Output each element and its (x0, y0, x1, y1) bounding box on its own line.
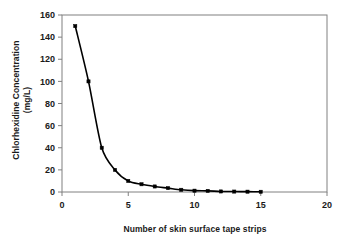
x-axis-ticks: 05101520 (59, 192, 332, 210)
y-axis-ticks: 020406080100120140160 (40, 10, 62, 197)
data-point-marker (180, 188, 183, 191)
data-point-marker (127, 179, 130, 182)
y-tick-label: 20 (45, 165, 55, 175)
y-axis-label-line2: (mg/L) (22, 40, 33, 159)
x-tick-label: 0 (59, 200, 64, 210)
y-tick-label: 160 (40, 10, 55, 20)
data-point-marker (219, 190, 222, 193)
chart-figure: Chlorhexidine Concentration (mg/L) 02040… (0, 0, 349, 251)
x-tick-label: 5 (126, 200, 131, 210)
data-point-marker (100, 146, 103, 149)
data-point-marker (87, 80, 90, 83)
x-tick-label: 10 (189, 200, 199, 210)
data-point-marker (259, 190, 262, 193)
plot-area: 020406080100120140160 05101520 (0, 0, 349, 251)
y-tick-label: 0 (50, 187, 55, 197)
x-axis-label: Number of skin surface tape strips (62, 224, 328, 234)
y-tick-label: 100 (40, 77, 55, 87)
y-axis-label: Chlorhexidine Concentration (mg/L) (4, 0, 40, 200)
data-point-marker (113, 168, 116, 171)
x-tick-label: 20 (322, 200, 332, 210)
plot-frame (62, 15, 327, 192)
data-point-marker (140, 183, 143, 186)
y-tick-label: 60 (45, 121, 55, 131)
x-tick-label: 15 (256, 200, 266, 210)
data-point-marker (166, 187, 169, 190)
y-tick-label: 140 (40, 32, 55, 42)
y-tick-label: 40 (45, 143, 55, 153)
data-point-marker (206, 189, 209, 192)
y-axis-label-line1: Chlorhexidine Concentration (11, 40, 22, 159)
data-point-marker (74, 24, 77, 27)
data-point-marker (233, 190, 236, 193)
y-tick-label: 80 (45, 99, 55, 109)
data-point-marker (153, 185, 156, 188)
data-point-marker (193, 189, 196, 192)
data-point-marker (246, 190, 249, 193)
y-tick-label: 120 (40, 54, 55, 64)
